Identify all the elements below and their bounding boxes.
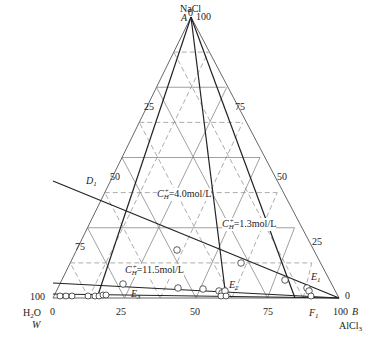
point-label-e3: E3 [131, 289, 141, 301]
tick-left-75: 75 [75, 242, 85, 252]
alcl3-main: AlCl [339, 320, 358, 331]
c-symbol: C [222, 218, 229, 229]
tick-left-50: 50 [110, 172, 120, 182]
tick-bottom-25: 25 [116, 307, 126, 317]
tick-top-hundred: 100 [196, 12, 211, 22]
c-value: =4.0mol/L [169, 188, 212, 199]
e2-sub: 2 [235, 284, 239, 292]
tick-left-25: 25 [144, 102, 154, 112]
data-points [57, 247, 314, 299]
c-value: =11.5mol/L [137, 264, 184, 275]
tick-right-75: 75 [235, 102, 245, 112]
h2o-o: O [34, 307, 41, 318]
tick-right-0: 0 [345, 291, 350, 301]
point-label-e2: E2 [229, 280, 239, 292]
concentration-label-4-0: CH+=4.0mol/L [157, 188, 211, 201]
grid-dashed [70, 52, 312, 298]
concentration-label-11-5: CH+=11.5mol/L [125, 264, 184, 277]
vertex-label-alcl3: AlCl3 [339, 321, 362, 333]
tick-bottom-0: 0 [50, 307, 55, 317]
tick-bottom-50: 50 [190, 307, 200, 317]
alcl3-sub: 3 [358, 325, 362, 333]
c-value: =1.3mol/L [234, 218, 277, 229]
tick-bottom-100: 100 [333, 307, 348, 317]
d1-sub: 1 [93, 180, 97, 188]
tick-bottom-75: 75 [263, 307, 273, 317]
tick-left-100: 100 [30, 292, 45, 302]
point-label-f1: F1 [309, 308, 319, 320]
c-symbol: C [125, 264, 132, 275]
point-label-e1: E1 [311, 272, 321, 284]
vertex-label-b: B [352, 307, 358, 317]
point-label-d1: D1 [86, 176, 97, 188]
e3-sub: 3 [137, 293, 141, 301]
ternary-diagram [0, 0, 382, 345]
c-symbol: C [157, 188, 164, 199]
tick-top-zero: 0 [188, 8, 193, 18]
tick-right-25: 25 [312, 237, 322, 247]
f1-sub: 1 [315, 312, 319, 320]
e1-sub: 1 [317, 276, 321, 284]
concentration-label-1-3: CH+=1.3mol/L [222, 218, 276, 231]
vertex-label-a: A [181, 13, 187, 23]
vertex-label-w: W [32, 320, 40, 330]
tick-right-50: 50 [277, 172, 287, 182]
